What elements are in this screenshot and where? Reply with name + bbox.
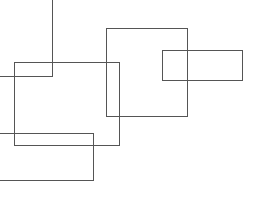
rectangle-b [106, 28, 187, 116]
diagram-canvas [0, 0, 267, 221]
rectangle-c [162, 50, 242, 80]
corner-line [0, 0, 52, 76]
